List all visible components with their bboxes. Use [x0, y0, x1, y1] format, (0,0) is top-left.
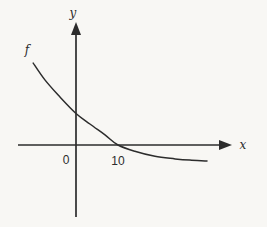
function-graph: y x f 0 10	[0, 0, 267, 227]
curve-f	[33, 63, 207, 161]
y-axis-label: y	[69, 6, 77, 20]
x-axis-label: x	[240, 138, 247, 152]
x-tick-origin: 0	[63, 153, 70, 167]
graph-page: y x f 0 10	[0, 0, 267, 227]
x-tick-ten: 10	[111, 154, 125, 168]
y-axis-arrow-icon	[71, 22, 81, 35]
x-axis-arrow-icon	[219, 140, 232, 150]
curve-label-f: f	[24, 43, 32, 57]
